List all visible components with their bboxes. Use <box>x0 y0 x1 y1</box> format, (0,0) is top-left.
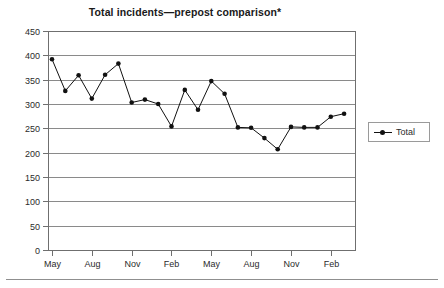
svg-text:450: 450 <box>25 27 40 37</box>
x-axis-ticks <box>53 251 332 256</box>
svg-text:Aug: Aug <box>243 259 259 269</box>
gridlines <box>48 32 356 227</box>
chart-container: Total incidents—prepost comparison* 0501… <box>0 0 444 288</box>
svg-text:0: 0 <box>35 246 40 256</box>
legend-marker-icon <box>380 130 385 135</box>
legend: Total <box>368 122 430 142</box>
svg-text:250: 250 <box>25 124 40 134</box>
svg-text:100: 100 <box>25 197 40 207</box>
svg-text:150: 150 <box>25 173 40 183</box>
svg-text:200: 200 <box>25 149 40 159</box>
axis-lines <box>48 32 356 251</box>
svg-text:May: May <box>203 259 221 269</box>
svg-text:Nov: Nov <box>283 259 300 269</box>
line-chart-plot: 050100150200250300350400450 MayAugNovFeb… <box>0 0 444 288</box>
y-axis-labels: 050100150200250300350400450 <box>25 27 40 256</box>
svg-text:Aug: Aug <box>84 259 100 269</box>
svg-text:May: May <box>44 259 62 269</box>
svg-text:50: 50 <box>30 222 40 232</box>
svg-text:Feb: Feb <box>324 259 340 269</box>
legend-item-label: Total <box>396 127 415 137</box>
y-axis-ticks <box>43 32 48 251</box>
svg-text:400: 400 <box>25 51 40 61</box>
footer-rule <box>6 279 438 280</box>
svg-text:Nov: Nov <box>124 259 141 269</box>
svg-text:350: 350 <box>25 76 40 86</box>
svg-text:Feb: Feb <box>164 259 180 269</box>
svg-text:300: 300 <box>25 100 40 110</box>
x-axis-labels: MayAugNovFebMayAugNovFeb <box>44 259 339 269</box>
